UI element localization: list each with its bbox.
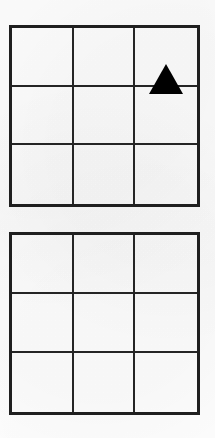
bottom-grid bbox=[9, 232, 200, 415]
bottom-grid-cell-r1-c1[interactable] bbox=[74, 294, 136, 353]
bottom-grid-cell-r2-c2[interactable] bbox=[135, 353, 197, 412]
top-grid bbox=[9, 25, 200, 207]
top-grid-cell-r0-c1[interactable] bbox=[74, 28, 136, 87]
top-grid-cell-r1-c1[interactable] bbox=[74, 87, 136, 146]
bottom-grid-cell-r0-c1[interactable] bbox=[74, 235, 136, 294]
top-grid-cell-r1-c2[interactable] bbox=[135, 87, 197, 146]
top-grid-cell-r1-c0[interactable] bbox=[12, 87, 74, 146]
top-grid-cell-r0-c0[interactable] bbox=[12, 28, 74, 87]
top-grid-cell-r2-c1[interactable] bbox=[74, 145, 136, 204]
bottom-grid-cell-r0-c2[interactable] bbox=[135, 235, 197, 294]
top-grid-cell-r0-c2[interactable] bbox=[135, 28, 197, 87]
bottom-grid-cell-r2-c1[interactable] bbox=[74, 353, 136, 412]
bottom-grid-cell-r0-c0[interactable] bbox=[12, 235, 74, 294]
top-grid-cell-r2-c0[interactable] bbox=[12, 145, 74, 204]
bottom-grid-cell-r2-c0[interactable] bbox=[12, 353, 74, 412]
top-grid-cell-r2-c2[interactable] bbox=[135, 145, 197, 204]
bottom-grid-cell-r1-c0[interactable] bbox=[12, 294, 74, 353]
bottom-grid-cell-r1-c2[interactable] bbox=[135, 294, 197, 353]
